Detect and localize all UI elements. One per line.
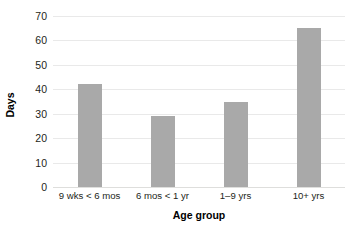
gridline-0 bbox=[53, 187, 345, 188]
y-tick-label-10: 10 bbox=[0, 157, 47, 169]
plot-area bbox=[53, 16, 345, 187]
x-tick-label: 10+ yrs bbox=[293, 190, 325, 201]
gridline-70 bbox=[53, 16, 345, 17]
bar bbox=[151, 116, 175, 187]
y-tick-label-0: 0 bbox=[0, 181, 47, 193]
x-axis-tick-labels: 9 wks < 6 mos6 mos < 1 yr1–9 yrs10+ yrs bbox=[53, 190, 345, 206]
x-axis-title: Age group bbox=[53, 209, 345, 221]
y-tick-label-50: 50 bbox=[0, 59, 47, 71]
bar bbox=[224, 102, 248, 188]
y-tick-label-30: 30 bbox=[0, 108, 47, 120]
x-tick-label: 1–9 yrs bbox=[220, 190, 251, 201]
bar-chart-figure: Days 010203040506070 9 wks < 6 mos6 mos … bbox=[0, 0, 361, 231]
x-tick-label: 6 mos < 1 yr bbox=[136, 190, 189, 201]
y-tick-label-20: 20 bbox=[0, 132, 47, 144]
bar bbox=[78, 84, 102, 187]
y-tick-label-60: 60 bbox=[0, 34, 47, 46]
y-tick-label-70: 70 bbox=[0, 10, 47, 22]
y-axis-tick-labels: 010203040506070 bbox=[0, 16, 47, 187]
bar bbox=[297, 28, 321, 187]
x-tick-label: 9 wks < 6 mos bbox=[59, 190, 121, 201]
y-tick-label-40: 40 bbox=[0, 83, 47, 95]
